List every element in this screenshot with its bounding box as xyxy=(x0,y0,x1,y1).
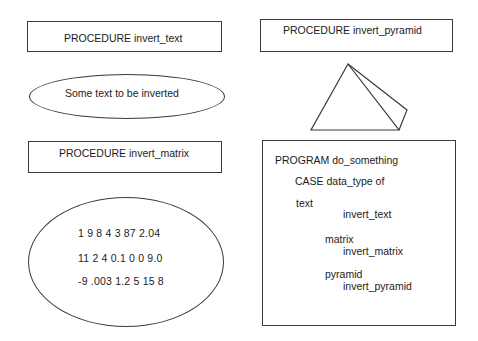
case-matrix-label: matrix xyxy=(325,233,354,245)
case-text-call: invert_text xyxy=(343,208,391,220)
case-matrix-call: invert_matrix xyxy=(343,245,403,257)
case-pyramid-call: invert_pyramid xyxy=(343,280,412,292)
case-pyramid-label: pyramid xyxy=(325,268,362,280)
case-statement: CASE data_type of xyxy=(295,175,384,187)
program-do-something-box xyxy=(262,140,456,326)
program-title: PROGRAM do_something xyxy=(275,154,398,166)
case-text-label: text xyxy=(296,197,313,209)
